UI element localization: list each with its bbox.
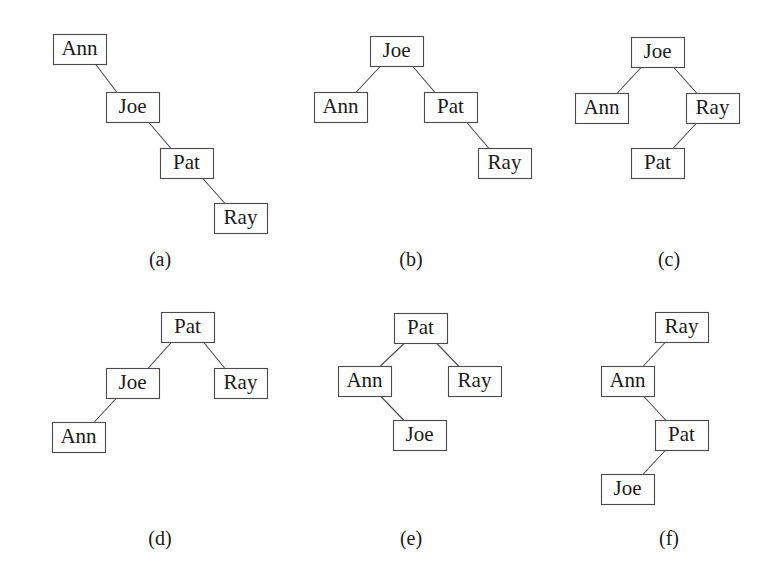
tree-edge-f-pat-joe	[643, 450, 665, 474]
tree-edge-e-pat-ann	[380, 343, 404, 366]
panel-caption-e: (e)	[400, 527, 422, 550]
tree-node-e-joe[interactable]: Joe	[394, 421, 447, 451]
tree-node-f-ann[interactable]: Ann	[602, 367, 655, 397]
node-label: Joe	[119, 94, 147, 118]
tree-edge-a-joe-pat	[148, 122, 170, 148]
tree-edge-b-joe-pat	[412, 66, 434, 92]
tree-node-b-joe[interactable]: Joe	[371, 37, 424, 67]
tree-panel-a: AnnJoePatRay(a)	[54, 35, 268, 272]
node-label: Ray	[665, 314, 699, 338]
node-label: Ann	[609, 368, 646, 392]
tree-node-a-ann[interactable]: Ann	[54, 35, 107, 65]
tree-edge-f-ray-ann	[643, 342, 665, 366]
node-label: Joe	[614, 476, 642, 500]
panel-caption-a: (a)	[149, 248, 171, 271]
tree-node-f-ray[interactable]: Ray	[656, 313, 709, 343]
tree-edge-b-pat-ray	[466, 122, 488, 148]
node-label: Ann	[583, 95, 620, 119]
tree-panel-b: JoeAnnPatRay(b)	[315, 37, 532, 272]
node-label: Ann	[322, 94, 359, 118]
node-label: Ray	[488, 150, 522, 174]
panel-caption-f: (f)	[659, 527, 679, 550]
tree-edge-e-pat-ray	[436, 343, 458, 366]
tree-node-a-ray[interactable]: Ray	[215, 204, 268, 234]
node-label: Pat	[173, 150, 200, 174]
node-label: Pat	[407, 315, 434, 339]
node-label: Joe	[119, 370, 147, 394]
node-label: Joe	[644, 39, 672, 63]
tree-edge-e-ann-joe	[380, 396, 403, 420]
panel-caption-b: (b)	[399, 248, 422, 271]
node-label: Ann	[346, 368, 383, 392]
tree-panel-e: PatAnnRayJoe(e)	[339, 314, 502, 551]
panel-caption-d: (d)	[148, 527, 171, 550]
tree-node-f-joe[interactable]: Joe	[602, 475, 655, 505]
tree-node-d-ann[interactable]: Ann	[53, 423, 106, 453]
tree-node-b-ann[interactable]: Ann	[315, 93, 368, 123]
tree-panel-f: RayAnnPatJoe(f)	[602, 313, 709, 551]
tree-node-c-joe[interactable]: Joe	[632, 38, 685, 68]
tree-node-a-pat[interactable]: Pat	[161, 149, 214, 179]
tree-node-c-ann[interactable]: Ann	[576, 94, 629, 124]
tree-node-e-ann[interactable]: Ann	[339, 367, 392, 397]
tree-node-d-pat[interactable]: Pat	[162, 313, 215, 343]
node-label: Pat	[437, 94, 464, 118]
binary-tree-figure: AnnJoePatRay(a)JoeAnnPatRay(b)JoeAnnRayP…	[0, 0, 774, 578]
tree-node-b-pat[interactable]: Pat	[425, 93, 478, 123]
node-label: Ray	[224, 370, 258, 394]
node-label: Pat	[668, 422, 695, 446]
tree-node-b-ray[interactable]: Ray	[479, 149, 532, 179]
node-label: Pat	[174, 314, 201, 338]
tree-edge-d-pat-ray	[203, 342, 224, 368]
tree-edge-a-ann-joe	[95, 64, 116, 92]
tree-edge-c-joe-ann	[617, 67, 641, 93]
node-label: Ann	[60, 424, 97, 448]
tree-edge-b-joe-ann	[356, 66, 380, 92]
node-label: Joe	[406, 422, 434, 446]
node-label: Joe	[383, 38, 411, 62]
tree-node-a-joe[interactable]: Joe	[107, 93, 160, 123]
tree-edge-f-ann-pat	[643, 396, 665, 420]
tree-edge-d-pat-joe	[148, 342, 171, 368]
tree-node-e-ray[interactable]: Ray	[449, 367, 502, 397]
tree-edge-c-ray-pat	[673, 123, 696, 148]
tree-node-d-ray[interactable]: Ray	[215, 369, 268, 399]
panel-caption-c: (c)	[658, 248, 680, 271]
tree-node-d-joe[interactable]: Joe	[107, 369, 160, 399]
tree-edge-c-joe-ray	[673, 67, 696, 93]
tree-edge-a-pat-ray	[202, 178, 224, 203]
node-label: Pat	[644, 150, 671, 174]
node-label: Ray	[696, 95, 730, 119]
tree-node-e-pat[interactable]: Pat	[395, 314, 448, 344]
tree-node-c-pat[interactable]: Pat	[632, 149, 685, 179]
tree-panel-d: PatJoeRayAnn(d)	[53, 313, 268, 551]
tree-edge-d-joe-ann	[94, 398, 116, 422]
node-label: Ann	[61, 36, 98, 60]
node-label: Ray	[458, 368, 492, 392]
tree-node-f-pat[interactable]: Pat	[656, 421, 709, 451]
node-label: Ray	[224, 205, 258, 229]
tree-panel-c: JoeAnnRayPat(c)	[576, 38, 740, 272]
tree-node-c-ray[interactable]: Ray	[687, 94, 740, 124]
